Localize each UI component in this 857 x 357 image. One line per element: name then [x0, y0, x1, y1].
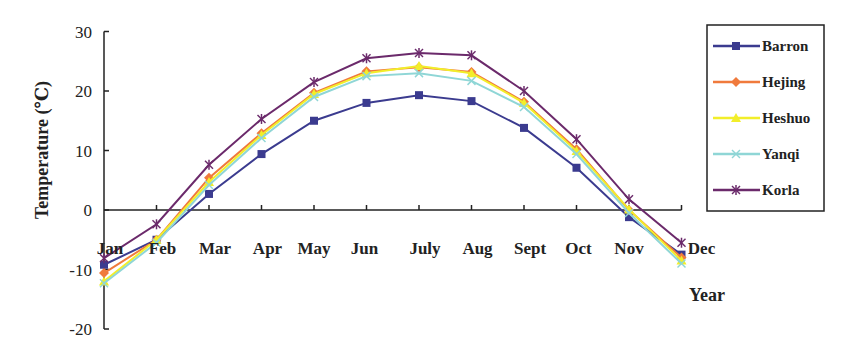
category-label: Nov	[614, 239, 644, 258]
category-label: Jun	[351, 239, 379, 258]
y-tick-label: -20	[69, 320, 92, 339]
y-tick-label: 20	[75, 82, 92, 101]
legend-label: Yanqi	[762, 146, 800, 162]
y-axis-title: Temperature (℃)	[32, 81, 53, 219]
y-tick-label: 10	[75, 142, 92, 161]
category-labels: JanFebMarAprMayJunJulyAugSeptOctNovDec	[97, 239, 716, 258]
y-tick-label: -10	[69, 261, 92, 280]
y-axis: 3020100-10-20	[69, 23, 109, 340]
legend-label: Korla	[762, 182, 800, 198]
series-yanqi	[100, 69, 686, 287]
series-barron	[100, 91, 686, 269]
category-label: July	[409, 239, 441, 258]
legend-label: Hejing	[762, 74, 806, 90]
line-chart: 3020100-10-20 JanFebMarAprMayJunJulyAugS…	[0, 0, 857, 357]
category-label: Dec	[688, 239, 716, 258]
category-label: Jan	[97, 239, 124, 258]
category-label: Apr	[253, 239, 283, 258]
x-axis-title: Year	[689, 285, 725, 305]
legend: BarronHejingHeshuoYanqiKorla	[707, 25, 824, 211]
y-tick-label: 0	[84, 201, 93, 220]
category-label: Sept	[514, 239, 546, 258]
series-layer	[99, 48, 687, 287]
category-label: May	[297, 239, 331, 258]
category-label: Oct	[565, 239, 592, 258]
category-label: Feb	[149, 239, 176, 258]
series-hejing	[99, 62, 687, 278]
legend-label: Heshuo	[762, 110, 810, 126]
series-korla	[100, 48, 686, 263]
y-tick-label: 30	[75, 23, 92, 42]
category-label: Mar	[199, 239, 232, 258]
category-label: Aug	[462, 239, 493, 258]
legend-label: Barron	[762, 38, 809, 54]
